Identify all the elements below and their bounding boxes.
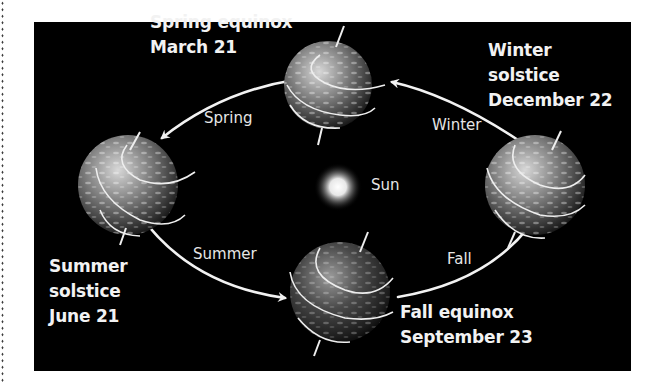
fall-equinox-date: September 23	[400, 325, 533, 350]
sun-icon	[314, 163, 362, 211]
earth-globe-icon	[78, 132, 195, 245]
sun-label: Sun	[371, 176, 400, 194]
summer-solstice-title-1: Summer	[49, 254, 128, 279]
earth-globe-icon	[485, 131, 585, 248]
spring-equinox-title: Spring equinox	[150, 10, 292, 35]
winter-solstice-title-2: solstice	[488, 63, 612, 88]
earth-globe-icon	[284, 26, 385, 145]
season-label-summer: Summer	[193, 245, 257, 263]
winter-solstice-label: Winter solstice December 22	[488, 38, 612, 113]
earth-globe-icon	[290, 232, 393, 356]
season-label-winter: Winter	[432, 116, 481, 134]
fall-equinox-title: Fall equinox	[400, 300, 533, 325]
winter-solstice-date: December 22	[488, 88, 612, 113]
summer-solstice-label: Summer solstice June 21	[49, 254, 128, 329]
summer-solstice-date: June 21	[49, 304, 128, 329]
spring-equinox-label: Spring equinox March 21	[150, 10, 292, 60]
season-label-spring: Spring	[204, 109, 252, 127]
spring-equinox-date: March 21	[150, 35, 292, 60]
summer-solstice-title-2: solstice	[49, 279, 128, 304]
winter-solstice-title-1: Winter	[488, 38, 612, 63]
season-label-fall: Fall	[447, 250, 472, 268]
fall-equinox-label: Fall equinox September 23	[400, 300, 533, 350]
